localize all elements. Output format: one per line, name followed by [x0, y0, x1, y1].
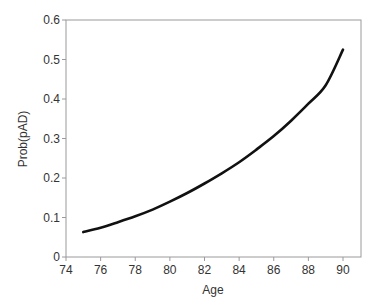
plot-area: 00.10.20.30.40.50.6747678808284868890	[43, 13, 361, 277]
y-tick-label: 0.6	[43, 13, 60, 27]
y-tick-label: 0.2	[43, 171, 60, 185]
x-tick-label: 86	[267, 263, 281, 277]
x-tick-label: 84	[232, 263, 246, 277]
y-tick-label: 0.4	[43, 92, 60, 106]
x-tick-label: 76	[94, 263, 108, 277]
series-line	[83, 50, 343, 233]
y-tick-label: 0	[53, 250, 60, 264]
x-tick-label: 82	[198, 263, 212, 277]
x-tick-label: 88	[302, 263, 316, 277]
y-tick-label: 0.5	[43, 53, 60, 67]
y-tick-label: 0.3	[43, 132, 60, 146]
y-tick-label: 0.1	[43, 211, 60, 225]
y-axis-label: Prob(pAD)	[16, 111, 30, 168]
x-axis-label: Age	[202, 283, 224, 297]
plot-frame	[66, 20, 361, 257]
x-tick-label: 74	[59, 263, 73, 277]
x-tick-label: 90	[336, 263, 350, 277]
chart: 00.10.20.30.40.50.6747678808284868890 Pr…	[0, 0, 379, 306]
x-tick-label: 80	[163, 263, 177, 277]
x-tick-label: 78	[129, 263, 143, 277]
